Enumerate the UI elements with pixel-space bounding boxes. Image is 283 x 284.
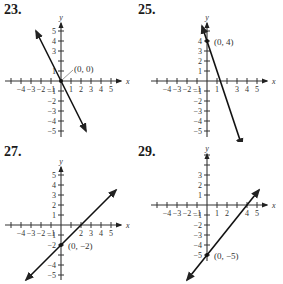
- graph-panel-29: 29. −4−3−2−11245321−1−2−3−4−5xy(0, −5): [142, 142, 283, 284]
- x-tick-label: −4: [163, 85, 172, 94]
- x-tick-label: 5: [255, 85, 259, 94]
- point-label: (0, 0): [74, 64, 94, 74]
- y-tick-label: −4: [193, 241, 202, 250]
- x-tick-label: 4: [245, 209, 249, 218]
- y-axis-label: y: [204, 144, 209, 153]
- x-tick-label: 2: [79, 85, 83, 94]
- x-tick-label: −4: [163, 209, 172, 218]
- y-axis-label: y: [58, 157, 63, 166]
- plot-svg: −4−3−2−113454321−1−2−3−4−5xy(0, 4): [142, 0, 283, 142]
- y-tick-label: 2: [198, 181, 202, 190]
- y-tick-label: 2: [52, 201, 56, 210]
- intercept-point: [205, 39, 209, 43]
- y-tick-label: −4: [47, 117, 56, 126]
- x-axis-label: x: [271, 201, 276, 210]
- y-tick-label: −5: [47, 271, 56, 280]
- x-tick-label: −4: [17, 229, 26, 238]
- y-axis-label: y: [204, 13, 209, 22]
- x-tick-label: −4: [17, 85, 26, 94]
- y-tick-label: −1: [193, 211, 202, 220]
- x-tick-label: −3: [173, 209, 182, 218]
- x-tick-label: 5: [109, 85, 113, 94]
- graph-panel-23: 23. −4−3−2−1123455431−1−2−3−4−5xy(0, 0): [0, 0, 141, 142]
- y-tick-label: −1: [193, 87, 202, 96]
- x-tick-label: 1: [215, 209, 219, 218]
- y-tick-label: −2: [193, 221, 202, 230]
- x-tick-label: 1: [215, 85, 219, 94]
- y-tick-label: −5: [47, 127, 56, 136]
- point-label: (0, −5): [214, 251, 239, 261]
- plot-svg: −4−3−2−1234554321−1−2−4−5xy(0, −2): [0, 142, 141, 284]
- x-tick-label: −2: [183, 85, 192, 94]
- graph-panel-27: 27. −4−3−2−1234554321−1−2−4−5xy(0, −2): [0, 142, 141, 284]
- x-tick-label: 1: [69, 85, 73, 94]
- y-tick-label: 4: [52, 37, 56, 46]
- point-label: (0, 4): [214, 37, 234, 47]
- intercept-point: [59, 243, 63, 247]
- point-label: (0, −2): [68, 241, 93, 251]
- y-tick-label: −4: [47, 261, 56, 270]
- y-tick-label: 2: [198, 57, 202, 66]
- x-tick-label: 3: [235, 85, 239, 94]
- x-axis-label: x: [125, 221, 130, 230]
- x-tick-label: 4: [99, 229, 103, 238]
- graph-panel-25: 25. −4−3−2−113454321−1−2−3−4−5xy(0, 4): [142, 0, 283, 142]
- y-tick-label: 3: [52, 47, 56, 56]
- y-tick-label: 3: [52, 191, 56, 200]
- y-tick-label: −2: [193, 97, 202, 106]
- x-tick-label: −2: [183, 209, 192, 218]
- y-tick-label: −2: [47, 241, 56, 250]
- x-axis-label: x: [271, 77, 276, 86]
- y-tick-label: −4: [193, 117, 202, 126]
- intercept-point: [205, 253, 209, 257]
- x-tick-label: 5: [109, 229, 113, 238]
- y-tick-label: −1: [47, 87, 56, 96]
- x-tick-label: 4: [99, 85, 103, 94]
- y-tick-label: −2: [47, 97, 56, 106]
- y-tick-label: 3: [198, 171, 202, 180]
- y-tick-label: 1: [52, 211, 56, 220]
- y-tick-label: −5: [193, 251, 202, 260]
- y-tick-label: 1: [198, 67, 202, 76]
- x-tick-label: −3: [27, 229, 36, 238]
- x-tick-label: −3: [27, 85, 36, 94]
- x-tick-label: 3: [89, 229, 93, 238]
- y-tick-label: −1: [47, 231, 56, 240]
- y-tick-label: 1: [198, 191, 202, 200]
- y-axis-label: y: [58, 13, 63, 22]
- plot-svg: −4−3−2−11245321−1−2−3−4−5xy(0, −5): [142, 142, 283, 284]
- x-tick-label: −2: [37, 229, 46, 238]
- plot-svg: −4−3−2−1123455431−1−2−3−4−5xy(0, 0): [0, 0, 141, 142]
- y-tick-label: 3: [198, 47, 202, 56]
- y-tick-label: 5: [52, 27, 56, 36]
- y-tick-label: −5: [193, 127, 202, 136]
- x-tick-label: 2: [225, 209, 229, 218]
- y-tick-label: 4: [52, 181, 56, 190]
- y-tick-label: 5: [52, 171, 56, 180]
- x-tick-label: 5: [255, 209, 259, 218]
- x-tick-label: 4: [245, 85, 249, 94]
- y-tick-label: −3: [193, 231, 202, 240]
- y-tick-label: −3: [193, 107, 202, 116]
- x-tick-label: 2: [79, 229, 83, 238]
- y-tick-label: −3: [47, 107, 56, 116]
- x-axis-label: x: [125, 77, 130, 86]
- x-tick-label: −2: [37, 85, 46, 94]
- x-tick-label: −3: [173, 85, 182, 94]
- x-tick-label: 3: [89, 85, 93, 94]
- y-tick-label: 4: [198, 37, 202, 46]
